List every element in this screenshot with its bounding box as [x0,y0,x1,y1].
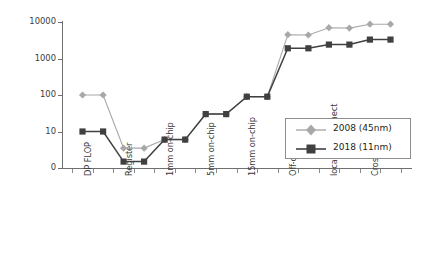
data-point-marker [79,91,86,98]
data-point-marker [366,21,373,28]
data-point-marker [326,42,332,48]
legend-label-2008: 2008 (45nm) [333,123,392,133]
legend-marker-diamond-icon [293,120,329,140]
data-point-marker [100,128,106,134]
data-point-marker [387,21,394,28]
chart-container: Picojoules Per 64bit operation 100001000… [0,0,424,268]
data-point-marker [305,31,312,38]
data-point-marker [367,37,373,43]
data-point-marker [162,137,168,143]
data-point-marker [284,31,291,38]
data-point-marker [244,94,250,100]
data-point-marker [346,42,352,48]
legend-marker-square-icon [293,139,329,159]
legend-label-2018: 2018 (11nm) [333,142,392,152]
data-point-marker [182,137,188,143]
legend-item-2008: 2008 (45nm) [286,120,412,140]
data-point-marker [285,45,291,51]
legend-item-2018: 2018 (11nm) [286,139,412,159]
data-point-marker [387,37,393,43]
data-point-marker [223,111,229,117]
data-point-marker [264,94,270,100]
data-point-marker [325,24,332,31]
data-point-marker [121,159,127,165]
data-point-marker [141,159,147,165]
data-point-marker [99,91,106,98]
data-point-marker [203,111,209,117]
data-point-marker [120,145,127,152]
data-point-marker [79,128,85,134]
data-point-marker [346,25,353,32]
chart-legend: 2008 (45nm) 2018 (11nm) [285,118,411,159]
data-point-marker [141,145,148,152]
data-point-marker [305,45,311,51]
